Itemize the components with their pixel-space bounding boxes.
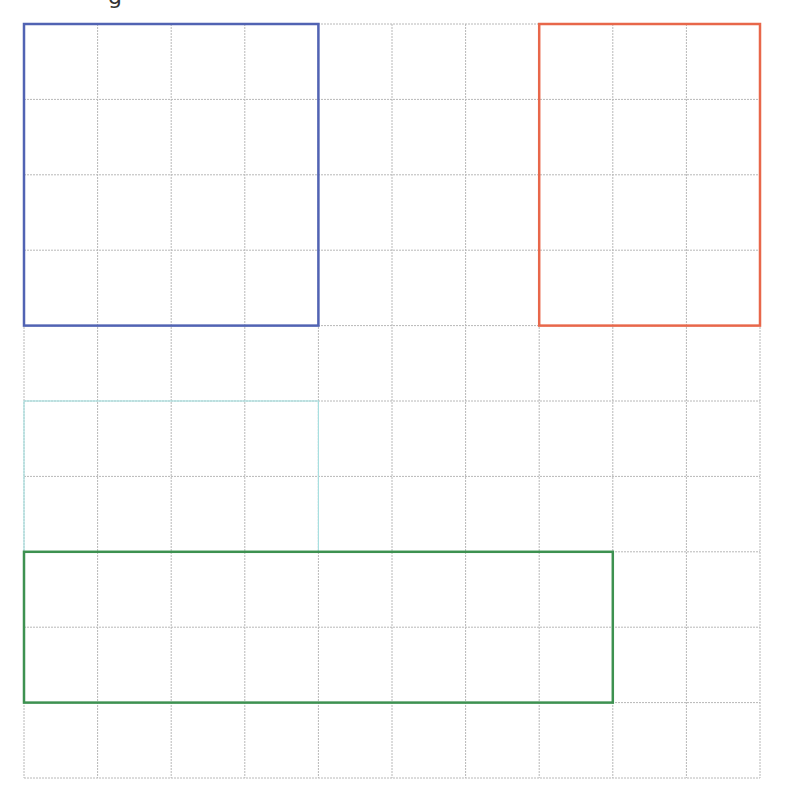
- grid-diagram: [0, 0, 794, 798]
